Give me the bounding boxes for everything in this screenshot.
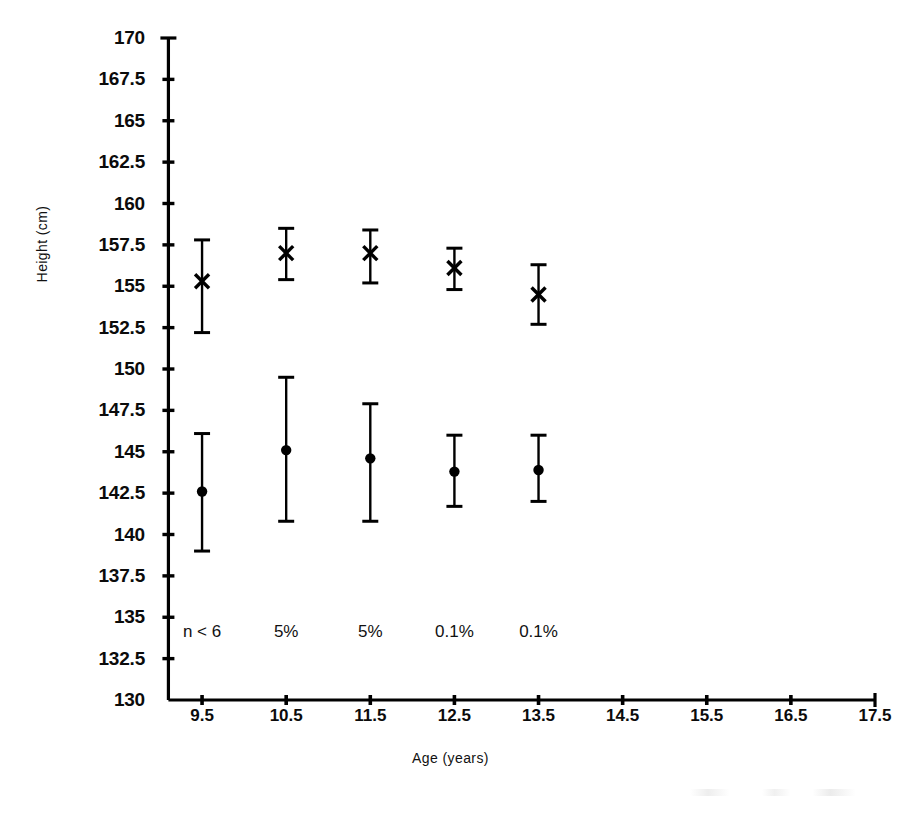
plot-area: [0, 0, 901, 817]
chart-container: Height (cm) Age (years) 170167.5165162.5…: [0, 0, 901, 817]
scan-artifact: [690, 789, 870, 796]
circle-marker: [449, 466, 459, 476]
circle-marker: [197, 486, 207, 496]
circle-marker: [365, 453, 375, 463]
circle-marker: [281, 445, 291, 455]
circle-marker: [533, 465, 543, 475]
